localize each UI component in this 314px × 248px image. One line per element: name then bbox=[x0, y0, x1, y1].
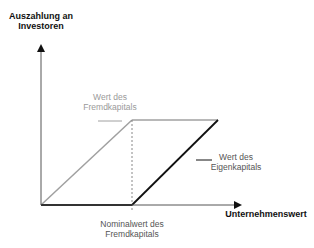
face-value-label-line1: Nominalwert des bbox=[90, 219, 174, 229]
y-axis-label-line2: Investoren bbox=[0, 21, 82, 31]
equity-label-line2: Eigenkapitals bbox=[206, 162, 266, 172]
face-value-label: Nominalwert des Fremdkapitals bbox=[90, 219, 174, 239]
y-axis bbox=[37, 44, 45, 205]
x-axis-label: Unternehmenswert bbox=[218, 209, 314, 219]
debt-label-line1: Wert des bbox=[80, 92, 140, 102]
debt-label-line2: Fremdkapitals bbox=[80, 102, 140, 112]
equity-value-label: Wert des Eigenkapitals bbox=[206, 152, 266, 172]
y-axis-label: Auszahlung an Investoren bbox=[0, 11, 82, 31]
debt-value-label: Wert des Fremdkapitals bbox=[80, 92, 140, 112]
x-axis-arrow-icon bbox=[234, 201, 242, 209]
debt-value-line bbox=[41, 120, 218, 205]
y-axis-arrow-icon bbox=[37, 44, 45, 52]
x-axis bbox=[41, 201, 242, 209]
face-value-label-line2: Fremdkapitals bbox=[90, 229, 174, 239]
y-axis-label-line1: Auszahlung an bbox=[0, 11, 82, 21]
equity-label-line1: Wert des bbox=[206, 152, 266, 162]
equity-value-line bbox=[41, 120, 218, 205]
